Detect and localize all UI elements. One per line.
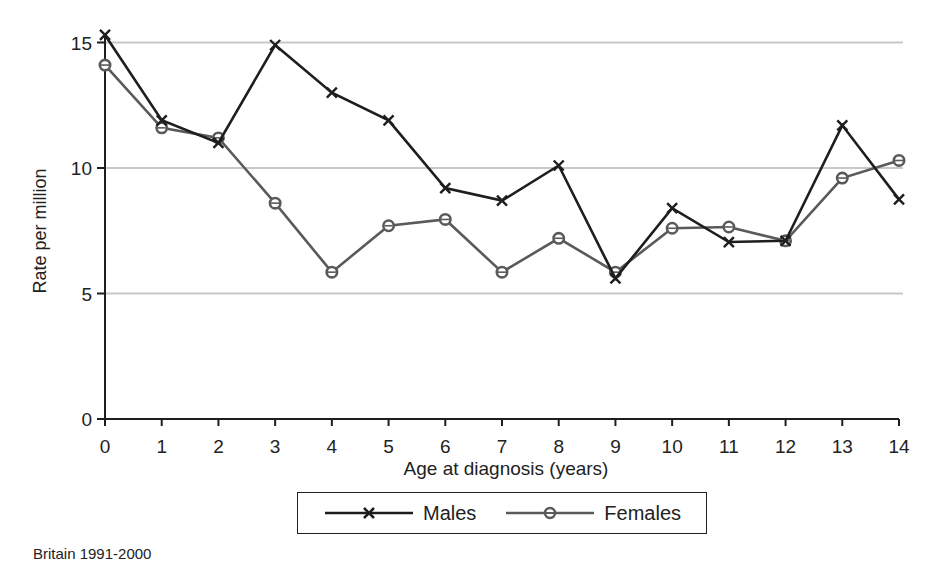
x-tick-label: 13 [832, 436, 853, 457]
x-marker-icon [667, 203, 677, 213]
x-tick-label: 5 [383, 436, 394, 457]
x-tick-label: 1 [156, 436, 167, 457]
gridlines [105, 43, 903, 294]
footnote: Britain 1991-2000 [33, 545, 151, 562]
y-tick-label: 15 [71, 33, 92, 54]
x-tick-label: 10 [662, 436, 683, 457]
x-marker-icon [323, 503, 415, 523]
y-tick-label: 5 [81, 284, 92, 305]
series-lines [100, 30, 904, 283]
x-marker-icon [327, 88, 337, 98]
x-tick-label: 0 [100, 436, 111, 457]
legend-label-males: Males [423, 502, 476, 525]
x-tick-label: 4 [327, 436, 338, 457]
y-axis-label: Rate per million [30, 168, 50, 293]
x-tick-label: 8 [553, 436, 564, 457]
x-tick-label: 11 [719, 436, 739, 457]
legend-label-females: Females [604, 502, 681, 525]
x-marker-icon [384, 115, 394, 125]
legend-item-females: Females [504, 502, 681, 525]
x-tick-label: 2 [213, 436, 224, 457]
x-axis-label: Age at diagnosis (years) [404, 458, 609, 479]
x-tick-label: 3 [270, 436, 281, 457]
legend-item-males: Males [323, 502, 476, 525]
x-tick-label: 6 [440, 436, 451, 457]
x-tick-label: 14 [888, 436, 910, 457]
x-marker-icon [894, 194, 904, 204]
x-tick-label: 12 [775, 436, 796, 457]
x-marker-icon [837, 120, 847, 130]
y-tick-label: 0 [81, 409, 92, 430]
circle-marker-icon [504, 503, 596, 523]
legend: Males Females [297, 492, 707, 534]
series-line-males [105, 35, 899, 278]
x-tick-label: 7 [497, 436, 508, 457]
y-tick-label: 10 [71, 158, 92, 179]
x-tick-label: 9 [610, 436, 621, 457]
